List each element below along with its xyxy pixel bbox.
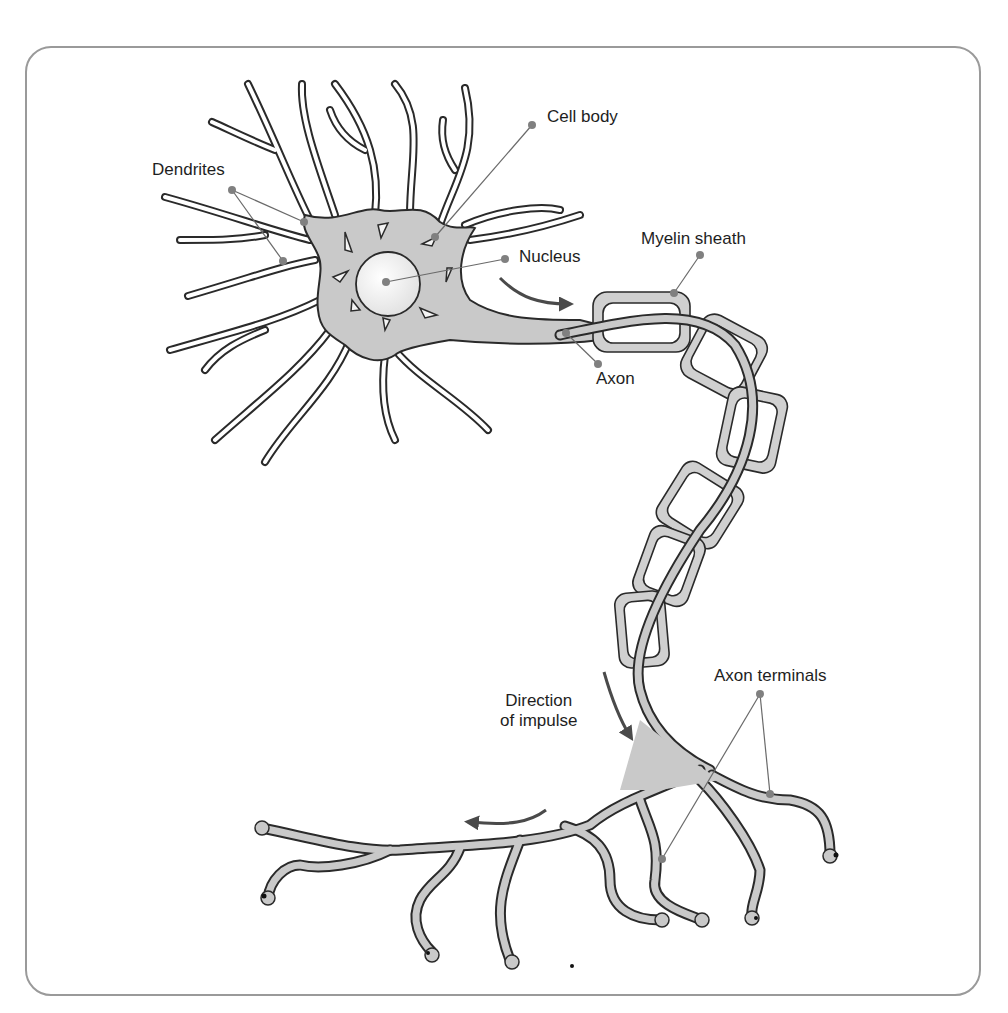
label-axon: Axon: [596, 369, 635, 389]
arrow-cell-to-axon: [500, 278, 568, 304]
axon-terminals: [255, 720, 839, 969]
label-nucleus: Nucleus: [519, 247, 580, 267]
label-direction-of-impulse: Direction of impulse: [500, 691, 577, 730]
label-cell-body: Cell body: [547, 107, 618, 127]
label-axon-terminals: Axon terminals: [714, 666, 826, 686]
label-myelin-sheath: Myelin sheath: [641, 229, 746, 249]
impulse-arrows: [470, 278, 630, 824]
label-dendrites: Dendrites: [152, 160, 225, 180]
neuron-diagram: [0, 0, 1008, 1013]
label-direction-line2: of impulse: [500, 711, 577, 731]
arrow-terminals: [470, 810, 546, 824]
arrow-direction-impulse: [604, 672, 630, 736]
label-direction-line1: Direction: [500, 691, 577, 711]
myelin-sheath: [593, 292, 790, 669]
